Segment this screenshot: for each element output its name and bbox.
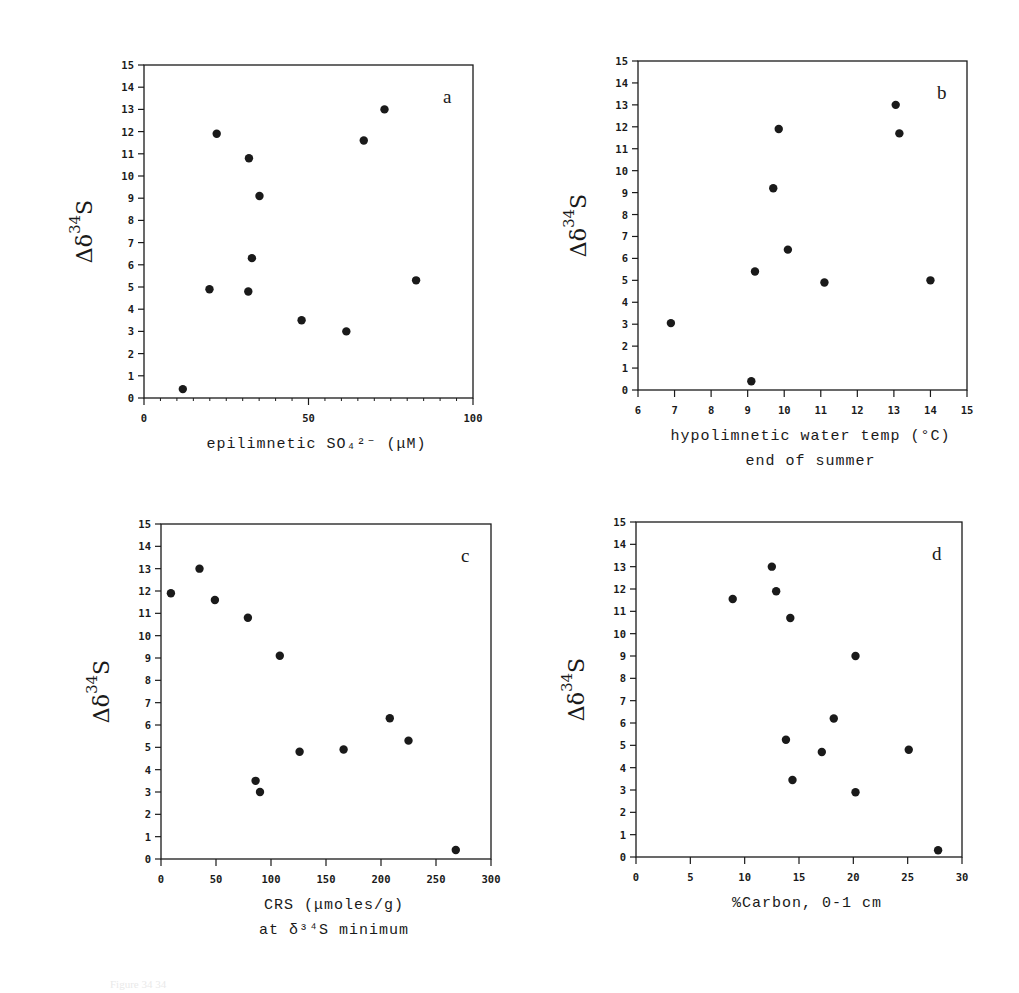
figure-4-panel-scatter: 0123456789101112131415050100aΔδ34Sepilim… xyxy=(0,0,1019,993)
x-tick-label: 0 xyxy=(141,412,147,424)
y-tick-label: 15 xyxy=(121,59,134,71)
data-point xyxy=(892,101,900,109)
x-tick-label: 6 xyxy=(635,404,641,416)
x-tick-label: 0 xyxy=(158,873,164,885)
y-tick-label: 5 xyxy=(620,739,626,751)
y-tick-label: 7 xyxy=(622,230,628,242)
y-tick-label: 13 xyxy=(613,561,626,573)
y-tick-label: 12 xyxy=(613,583,626,595)
y-tick-label: 6 xyxy=(622,252,628,264)
data-point xyxy=(244,614,252,622)
data-point xyxy=(213,130,221,138)
y-tick-label: 5 xyxy=(128,281,134,293)
y-axis-label: Δδ34S xyxy=(83,660,114,723)
x-tick-label: 250 xyxy=(427,873,446,885)
y-tick-label: 8 xyxy=(128,214,134,226)
y-tick-label: 15 xyxy=(613,516,626,528)
data-point xyxy=(452,846,460,854)
y-tick-label: 3 xyxy=(622,318,628,330)
y-tick-label: 14 xyxy=(121,81,134,93)
y-tick-label: 11 xyxy=(615,143,628,155)
data-point xyxy=(772,587,780,595)
y-tick-label: 6 xyxy=(128,259,134,271)
y-tick-label: 4 xyxy=(145,764,151,776)
y-tick-label: 7 xyxy=(145,697,151,709)
x-axis-label: epilimnetic SO₄²⁻ (μM) xyxy=(206,436,426,453)
x-tick-label: 50 xyxy=(302,412,315,424)
y-tick-label: 9 xyxy=(128,192,134,204)
y-tick-label: 13 xyxy=(615,99,628,111)
y-tick-label: 0 xyxy=(128,392,134,404)
data-point xyxy=(251,777,259,785)
y-tick-label: 10 xyxy=(615,165,628,177)
plot-frame xyxy=(144,65,473,398)
data-point xyxy=(256,788,264,796)
x-tick-label: 8 xyxy=(708,404,714,416)
y-tick-label: 9 xyxy=(145,652,151,664)
y-tick-label: 10 xyxy=(138,630,151,642)
data-point xyxy=(729,595,737,603)
y-tick-label: 14 xyxy=(615,77,628,89)
y-tick-label: 8 xyxy=(620,672,626,684)
data-point xyxy=(905,746,913,754)
data-point xyxy=(851,788,859,796)
data-point xyxy=(768,562,776,570)
data-point xyxy=(788,776,796,784)
data-point xyxy=(747,377,755,385)
panel-letter: a xyxy=(443,86,452,107)
y-tick-label: 7 xyxy=(128,237,134,249)
data-point xyxy=(205,285,213,293)
y-tick-label: 3 xyxy=(620,784,626,796)
y-tick-label: 4 xyxy=(622,296,628,308)
data-point xyxy=(386,714,394,722)
data-point xyxy=(248,254,256,262)
y-tick-label: 0 xyxy=(145,853,151,865)
x-tick-label: 0 xyxy=(633,871,639,883)
data-point xyxy=(934,846,942,854)
x-tick-label: 12 xyxy=(851,404,864,416)
y-tick-label: 11 xyxy=(613,605,626,617)
data-point xyxy=(769,184,777,192)
data-point xyxy=(895,129,903,137)
y-tick-label: 6 xyxy=(145,719,151,731)
y-tick-label: 14 xyxy=(613,538,626,550)
y-tick-label: 2 xyxy=(145,808,151,820)
data-point xyxy=(342,327,350,335)
y-tick-label: 3 xyxy=(145,786,151,798)
plot-frame xyxy=(636,522,962,857)
y-tick-label: 1 xyxy=(622,362,628,374)
y-tick-label: 12 xyxy=(138,585,151,597)
panel-letter: d xyxy=(932,543,942,564)
data-point xyxy=(380,105,388,113)
y-tick-label: 10 xyxy=(613,628,626,640)
y-tick-label: 13 xyxy=(138,563,151,575)
data-point xyxy=(818,748,826,756)
x-axis-label: %Carbon, 0-1 cm xyxy=(732,895,882,912)
data-point xyxy=(179,385,187,393)
data-point xyxy=(255,192,263,200)
panel-letter: c xyxy=(461,545,469,566)
data-point xyxy=(782,736,790,744)
y-tick-label: 10 xyxy=(121,170,134,182)
y-tick-label: 14 xyxy=(138,540,151,552)
data-point xyxy=(211,596,219,604)
x-tick-label: 10 xyxy=(738,871,751,883)
x-axis-label: hypolimnetic water temp (°C) xyxy=(670,428,950,445)
data-point xyxy=(820,278,828,286)
y-axis-label: Δδ34S xyxy=(66,200,97,263)
data-point xyxy=(339,745,347,753)
y-axis-label: Δδ34S xyxy=(560,194,591,257)
scatter-panel-d: 0123456789101112131415051015202530dΔδ34S… xyxy=(558,516,968,912)
x-tick-label: 10 xyxy=(778,404,791,416)
y-tick-label: 1 xyxy=(128,370,134,382)
figure-caption-fragment: Figure 34 34 xyxy=(110,978,910,992)
y-tick-label: 15 xyxy=(615,55,628,67)
y-tick-label: 7 xyxy=(620,695,626,707)
y-tick-label: 8 xyxy=(145,674,151,686)
x-tick-label: 150 xyxy=(317,873,336,885)
data-point xyxy=(244,287,252,295)
y-tick-label: 12 xyxy=(121,126,134,138)
data-point xyxy=(786,614,794,622)
y-tick-label: 13 xyxy=(121,103,134,115)
data-point xyxy=(412,276,420,284)
